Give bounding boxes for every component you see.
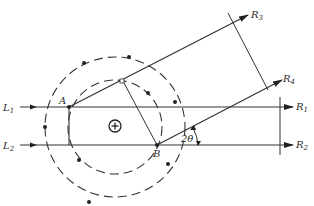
label-L1: L1 [2,102,14,115]
ray-B-R4 [157,80,282,145]
right-angle-marker [120,79,124,83]
label-R1: R1 [295,101,308,114]
label-A: A [58,95,66,106]
label-angle-2theta: 2θ [180,133,193,144]
ray-scattering-diagram: L1 L2 A B R1 R2 R3 R4 2θ [0,0,314,206]
incoming-arrow-L1 [30,105,37,110]
label-R3: R3 [250,9,264,22]
label-R2: R2 [295,139,309,152]
label-L2: L2 [2,140,15,153]
incoming-arrow-L2 [30,143,37,148]
ray-A-R3 [69,15,248,107]
label-B: B [152,148,160,159]
nucleus-symbol [109,120,121,132]
point-A [67,105,71,109]
point-B [155,143,159,147]
label-R4: R4 [282,73,295,86]
perpendicular-B-to-AR3 [123,81,157,145]
scattered-wavefront [228,13,268,90]
